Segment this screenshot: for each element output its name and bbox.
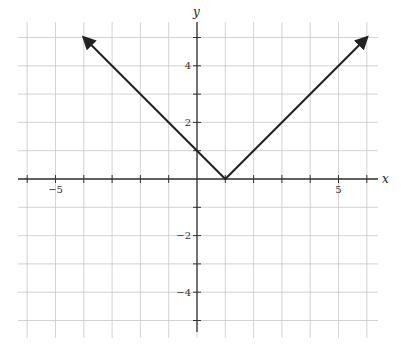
grid-lines bbox=[18, 22, 378, 338]
axes bbox=[18, 22, 378, 332]
x-axis-label: x bbox=[382, 172, 389, 186]
y-tick-label: −2 bbox=[176, 230, 191, 241]
y-tick-label: 2 bbox=[185, 117, 191, 128]
x-tick-label: −5 bbox=[48, 184, 63, 195]
x-tick-label: 5 bbox=[335, 184, 341, 195]
y-tick-label: −4 bbox=[176, 287, 191, 298]
y-tick-label: 4 bbox=[185, 60, 191, 71]
coordinate-plane: −5542−2−4 x y bbox=[0, 0, 406, 348]
y-axis-label: y bbox=[192, 5, 200, 19]
